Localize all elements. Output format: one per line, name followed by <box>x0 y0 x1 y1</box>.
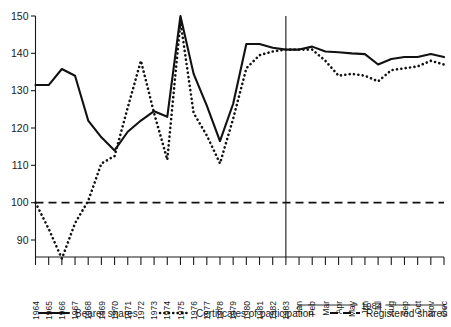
y-tick-label: 90 <box>17 234 29 246</box>
line-chart-canvas: 90100110120130140150 1964196519661967196… <box>0 0 451 327</box>
legend-label: Registered shares <box>366 308 447 319</box>
y-tick-label: 140 <box>11 47 29 59</box>
chart-figure: 90100110120130140150 1964196519661967196… <box>0 0 451 327</box>
y-tick-label: 110 <box>12 159 29 171</box>
x-tick-label: 1965 <box>44 301 54 320</box>
legend-label: Bearer shares <box>75 308 138 319</box>
x-tick-label: 1974 <box>162 301 172 320</box>
y-tick-label: 150 <box>11 10 29 22</box>
x-tick-label: 1964 <box>31 301 41 320</box>
x-tick-label: 1966 <box>57 301 67 320</box>
data-series-group <box>36 16 445 259</box>
x-tick-label: May <box>347 300 357 317</box>
x-tick-label: 1975 <box>176 301 186 320</box>
y-tick-label: 130 <box>11 84 29 96</box>
x-tick-label: Mar <box>321 301 331 316</box>
y-tick-label: 120 <box>11 122 29 134</box>
series-line-bearer-shares <box>36 16 445 150</box>
y-axis: 90100110120130140150 <box>11 10 36 257</box>
y-tick-label: 100 <box>11 196 29 208</box>
chart-legend: Bearer sharesCertificates of participati… <box>39 308 447 319</box>
x-tick-label: 1973 <box>149 301 159 320</box>
series-line-certificates-of-participation <box>36 22 445 259</box>
legend-label: Certificates of participation <box>196 308 314 319</box>
